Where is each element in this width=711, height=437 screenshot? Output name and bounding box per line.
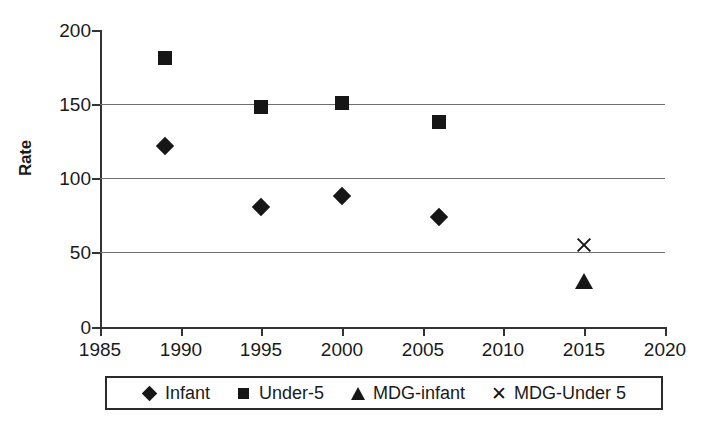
- plot-area: 200 150 100 50 0 1985 1990: [100, 30, 665, 327]
- square-marker-icon: [236, 384, 252, 402]
- data-point-mdg-infant-2015: [575, 273, 593, 289]
- legend-label-under5: Under-5: [259, 384, 324, 402]
- chart-figure: Rate 200 150 100 50 0 1: [0, 0, 711, 437]
- legend-label-infant: Infant: [165, 384, 210, 402]
- legend-item-infant: Infant: [142, 384, 210, 402]
- data-point-under5-1989: [158, 51, 172, 65]
- legend-label-mdg-under5: MDG-Under 5: [514, 384, 626, 402]
- data-point-under5-2006: [432, 115, 446, 129]
- data-point-infant-2006: [430, 208, 448, 226]
- x-axis-line: [100, 327, 666, 329]
- legend-item-mdg-infant: MDG-infant: [350, 384, 465, 402]
- legend-item-mdg-under5: ✕ MDG-Under 5: [491, 384, 626, 402]
- data-point-infant-2000: [333, 187, 351, 205]
- data-point-mdg-under5-2015: [575, 236, 593, 254]
- cross-marker-icon: ✕: [491, 384, 507, 402]
- triangle-marker-icon: [350, 384, 366, 402]
- legend-item-under5: Under-5: [236, 384, 324, 402]
- data-point-under5-1995: [254, 100, 268, 114]
- data-point-infant-1989: [155, 137, 173, 155]
- legend-label-mdg-infant: MDG-infant: [373, 384, 465, 402]
- data-point-infant-1995: [252, 197, 270, 215]
- chart-legend: Infant Under-5 MDG-infant ✕ MDG-Under 5: [105, 376, 663, 410]
- diamond-marker-icon: [142, 384, 158, 402]
- data-point-under5-2000: [335, 96, 349, 110]
